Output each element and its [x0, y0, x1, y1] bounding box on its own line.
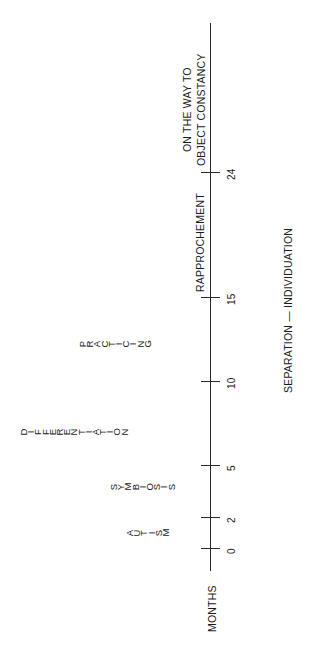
stage-differentiation: DIFFERENTIATION — [20, 427, 128, 437]
stage-rapprochement: RAPPROCHEMENT — [195, 193, 206, 292]
tick-2 — [201, 517, 220, 518]
tick-label-15: 15 — [226, 293, 237, 305]
stage-letter: M — [161, 529, 171, 536]
tick-label-5: 5 — [226, 465, 237, 471]
tick-label-2: 2 — [226, 517, 237, 523]
stage-letter: S — [166, 483, 176, 490]
stage-symbiosis: SYMBIOSIS — [110, 482, 175, 492]
tick-15 — [201, 297, 220, 298]
diagram-title: SEPARATION — INDIVIDUATION — [283, 228, 294, 393]
stage-object-constancy-line1: ON THE WAY TO — [182, 67, 193, 152]
tick-0 — [201, 548, 220, 549]
stage-practicing: PRACTICING — [79, 339, 151, 349]
tick-24 — [201, 172, 220, 173]
stage-object-constancy-line2: OBJECT CONSTANCY — [196, 54, 207, 167]
stage-letter: G — [142, 340, 152, 347]
axis-label-months: MONTHS — [207, 585, 218, 632]
tick-label-0: 0 — [226, 548, 237, 554]
stage-letter: N — [119, 428, 129, 435]
tick-label-24: 24 — [226, 168, 237, 180]
stage-autism: AUTISM — [126, 528, 169, 538]
tick-label-10: 10 — [226, 377, 237, 389]
tick-5 — [201, 465, 220, 466]
tick-10 — [201, 381, 220, 382]
